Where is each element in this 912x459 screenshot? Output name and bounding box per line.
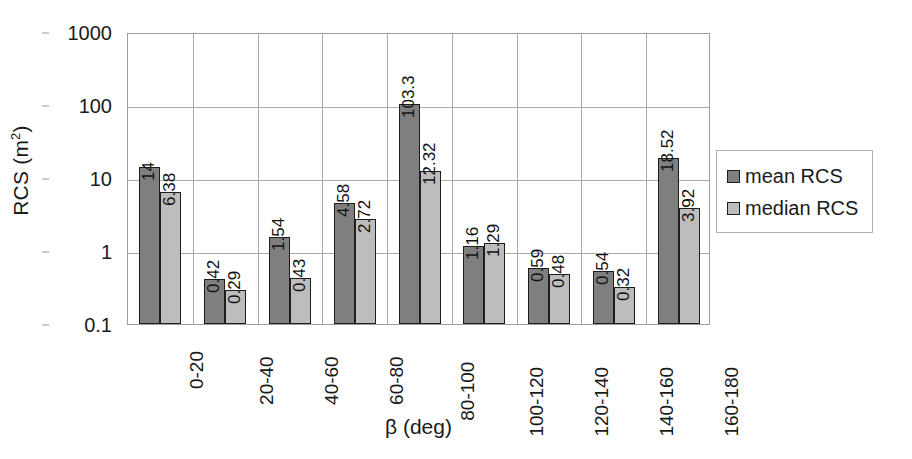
y-axis-tick-mark (42, 325, 49, 326)
legend-label: median RCS (745, 197, 858, 220)
plot-area: 146.380.420.291.540.434.582.72103.312.32… (127, 33, 710, 325)
x-axis-tick-label: 0-20 (187, 351, 206, 389)
y-axis-tick-mark (42, 252, 49, 253)
y-axis-tick-label: 1000 (68, 22, 113, 45)
legend-swatch-icon (727, 202, 740, 215)
y-axis-title-text: RCS (m (9, 139, 32, 215)
bar-value-label: 18.52 (659, 130, 676, 173)
legend-swatch-icon (727, 170, 740, 183)
x-axis-ticks: 0-2020-4040-6060-8080-100100-120120-1401… (127, 326, 710, 416)
y-axis-ticks: 10001001010.1 (42, 33, 120, 325)
x-axis-tick-label: 20-40 (257, 356, 276, 405)
y-axis-tick-label: 10 (90, 168, 112, 191)
chart-container: RCS (m2) 10001001010.1 146.380.420.291.5… (0, 0, 912, 459)
x-axis-tick-label: 40-60 (322, 356, 341, 405)
y-axis-tick-mark (42, 179, 49, 180)
y-axis-title-close: ) (9, 125, 32, 132)
x-axis-title: β (deg) (127, 415, 710, 439)
x-axis-tick-label: 80-100 (457, 362, 476, 421)
chart-legend: mean RCSmedian RCS (716, 150, 873, 233)
x-axis-tick-label: 160-180 (721, 367, 740, 437)
bar-mean[interactable] (658, 158, 679, 324)
y-axis-tick-label: 0.1 (84, 314, 112, 337)
x-axis-tick-label: 60-80 (387, 356, 406, 405)
y-axis-tick-label: 100 (79, 95, 112, 118)
y-axis-tick-label: 1 (101, 241, 112, 264)
y-axis-title-superscript: 2 (8, 132, 23, 139)
bar-value-label: 3.92 (680, 189, 697, 222)
bar-median[interactable] (679, 208, 700, 324)
y-axis-tick-mark (42, 33, 49, 34)
legend-label: mean RCS (745, 165, 843, 188)
bar-group: 18.523.92 (128, 34, 711, 324)
y-axis-tick-mark (42, 106, 49, 107)
legend-item[interactable]: mean RCS (727, 165, 858, 188)
y-axis-title: RCS (m2) (0, 0, 40, 340)
legend-item[interactable]: median RCS (727, 197, 858, 220)
